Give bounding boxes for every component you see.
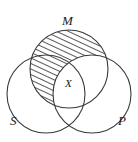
set-label-s: S <box>10 114 17 127</box>
center-mark-x: X <box>65 78 72 89</box>
venn-diagram: M S P X <box>0 0 138 142</box>
set-label-m: M <box>62 14 73 27</box>
set-label-p: P <box>118 114 126 127</box>
